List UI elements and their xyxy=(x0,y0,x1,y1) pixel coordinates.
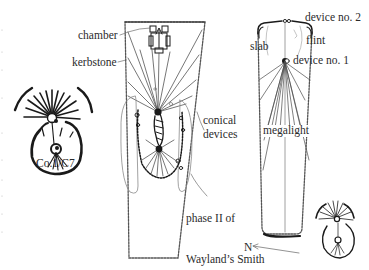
conical-label-line1: conical xyxy=(203,115,236,127)
kerbstone-label: kerbstone xyxy=(72,57,117,69)
flint-label: flint xyxy=(306,35,325,47)
chamber-label: chamber xyxy=(78,30,118,42)
co1-c7-caption: Co.1/C7 xyxy=(36,158,75,170)
north-label: N xyxy=(244,242,252,254)
megalight-label: megalight xyxy=(262,125,310,137)
device-no-1-label: device no. 1 xyxy=(293,55,349,67)
waylands-caption-line2: Wayland’s Smith xyxy=(186,253,265,267)
diagram-canvas: Co.1/C7 chamber kerbstone conical device… xyxy=(0,0,369,270)
small-mound-figure xyxy=(316,201,354,258)
margin-marks xyxy=(1,29,2,232)
slab-label: slab xyxy=(250,41,269,53)
waylands-caption-line1: phase II of xyxy=(186,212,265,226)
device-no-2-label: device no. 2 xyxy=(305,12,361,24)
waylands-caption: phase II of Wayland’s Smith and Fussell’… xyxy=(186,185,265,270)
conical-label-line2: devices xyxy=(203,129,237,141)
